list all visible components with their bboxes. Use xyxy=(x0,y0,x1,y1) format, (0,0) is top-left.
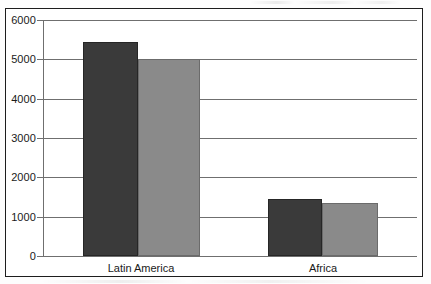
y-tick-label-2000: 2000 xyxy=(2,172,36,183)
bar-africa-series-2[interactable] xyxy=(322,203,379,256)
y-tick-label-3000: 3000 xyxy=(2,133,36,144)
x-axis-label-africa: Africa xyxy=(268,262,378,274)
y-tick-mark-1000 xyxy=(37,217,43,218)
gridline-6000 xyxy=(43,20,417,21)
scan-artifact-bottom xyxy=(40,280,370,283)
y-tick-mark-0 xyxy=(37,256,43,257)
y-tick-mark-2000 xyxy=(37,177,43,178)
scan-artifact-top xyxy=(250,1,400,4)
y-tick-label-1000: 1000 xyxy=(2,212,36,223)
y-tick-mark-3000 xyxy=(37,138,43,139)
x-axis-label-latin-america: Latin America xyxy=(82,262,200,274)
y-tick-mark-5000 xyxy=(37,59,43,60)
y-tick-label-0: 0 xyxy=(2,251,36,262)
y-tick-label-5000: 5000 xyxy=(2,54,36,65)
plot-area xyxy=(43,20,417,256)
chart-screenshot: 0 1000 2000 3000 4000 5000 6000 Latin Am… xyxy=(0,0,431,284)
y-tick-label-4000: 4000 xyxy=(2,94,36,105)
y-tick-mark-4000 xyxy=(37,99,43,100)
y-tick-label-6000: 6000 xyxy=(2,15,36,26)
bar-africa-series-1[interactable] xyxy=(268,199,321,256)
gridline-0 xyxy=(43,256,417,257)
y-tick-mark-6000 xyxy=(37,20,43,21)
bar-latin-america-series-1[interactable] xyxy=(83,42,139,256)
bar-latin-america-series-2[interactable] xyxy=(138,59,200,256)
